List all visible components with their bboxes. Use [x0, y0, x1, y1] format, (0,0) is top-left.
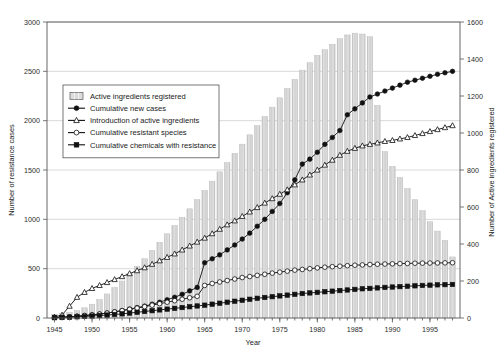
chart-canvas: 0500100015002000250030000200400600800100… — [0, 0, 504, 350]
marker-filled-circle — [74, 106, 79, 111]
marker-open-circle — [360, 263, 365, 268]
y-axis-left-tick-label: 2500 — [24, 67, 40, 76]
marker-filled-square — [368, 286, 372, 290]
bar — [435, 231, 441, 318]
bar — [307, 63, 313, 318]
marker-open-circle — [353, 263, 358, 268]
marker-filled-circle — [187, 289, 192, 294]
bar — [179, 217, 185, 318]
marker-filled-square — [428, 283, 432, 287]
bar — [187, 209, 193, 318]
bar — [442, 240, 448, 318]
marker-filled-square — [165, 307, 169, 311]
marker-filled-circle — [428, 74, 433, 79]
bar — [337, 39, 343, 318]
bar — [315, 55, 321, 318]
y-axis-left-tick-label: 1500 — [24, 166, 40, 175]
legend-item-label: Active ingredients registered — [90, 92, 186, 101]
bar — [405, 189, 411, 319]
marker-filled-square — [353, 287, 357, 291]
marker-filled-circle — [405, 80, 410, 85]
marker-open-circle — [345, 263, 350, 268]
bar — [157, 242, 163, 318]
marker-filled-circle — [360, 101, 365, 106]
marker-filled-square — [255, 296, 259, 300]
y-axis-right-tick-label: 1600 — [467, 18, 483, 27]
x-axis-tick-label: 1970 — [234, 325, 250, 334]
marker-open-circle — [450, 260, 455, 265]
bar — [255, 126, 261, 318]
marker-open-circle — [195, 294, 200, 299]
marker-open-circle — [315, 266, 320, 271]
x-axis-tick-label: 1945 — [47, 325, 63, 334]
marker-filled-circle — [345, 112, 350, 117]
marker-filled-square — [150, 308, 154, 312]
marker-open-circle — [240, 275, 245, 280]
marker-open-circle — [210, 281, 215, 286]
marker-open-circle — [323, 265, 328, 270]
marker-filled-circle — [308, 157, 313, 162]
bar — [427, 222, 433, 318]
marker-open-circle — [217, 280, 222, 285]
legend-item-label: Cumulative chemicals with resistance — [90, 141, 216, 150]
x-axis-tick-label: 1990 — [384, 325, 400, 334]
marker-filled-square — [127, 311, 131, 315]
bar — [292, 79, 298, 318]
marker-open-circle — [180, 297, 185, 302]
marker-open-circle — [262, 272, 267, 277]
marker-filled-square — [443, 282, 447, 286]
marker-open-circle — [142, 304, 147, 309]
marker-filled-square — [218, 301, 222, 305]
marker-filled-circle — [375, 92, 380, 97]
marker-open-circle — [165, 300, 170, 305]
marker-filled-square — [390, 285, 394, 289]
marker-filled-circle — [330, 135, 335, 140]
marker-filled-square — [308, 291, 312, 295]
marker-filled-circle — [232, 243, 237, 248]
legend[interactable]: Active ingredients registeredCumulative … — [63, 85, 219, 158]
bar — [217, 172, 223, 318]
marker-open-circle — [187, 295, 192, 300]
marker-filled-square — [142, 309, 146, 313]
bar — [412, 200, 418, 318]
marker-filled-circle — [413, 78, 418, 83]
y-axis-right-tick-label: 200 — [467, 277, 479, 286]
legend-item-label: Introduction of active ingredients — [90, 116, 200, 125]
marker-filled-circle — [240, 237, 245, 242]
marker-filled-circle — [450, 69, 455, 74]
marker-filled-circle — [420, 76, 425, 81]
marker-open-circle — [308, 266, 313, 271]
marker-filled-square — [74, 142, 79, 147]
marker-open-circle — [135, 306, 140, 311]
legend-item[interactable]: Cumulative chemicals with resistance — [68, 141, 216, 150]
marker-open-circle — [172, 298, 177, 303]
marker-filled-square — [383, 285, 387, 289]
marker-filled-square — [323, 290, 327, 294]
marker-filled-square — [225, 300, 229, 304]
bar — [345, 35, 351, 318]
marker-filled-circle — [323, 142, 328, 147]
marker-filled-square — [375, 286, 379, 290]
marker-filled-square — [263, 295, 267, 299]
y-axis-right-tick-label: 800 — [467, 166, 479, 175]
marker-filled-circle — [180, 292, 185, 297]
marker-filled-circle — [195, 285, 200, 290]
marker-open-circle — [443, 261, 448, 266]
marker-filled-square — [293, 292, 297, 296]
marker-open-circle — [428, 261, 433, 266]
bar — [360, 34, 366, 318]
y-axis-left-tick-label: 2000 — [24, 116, 40, 125]
bar — [247, 135, 253, 318]
x-axis-tick-label: 1985 — [347, 325, 363, 334]
marker-filled-circle — [277, 201, 282, 206]
marker-filled-circle — [262, 217, 267, 222]
bar — [285, 89, 291, 318]
marker-open-circle — [225, 278, 230, 283]
marker-open-circle — [405, 261, 410, 266]
bar — [209, 181, 215, 318]
marker-filled-square — [278, 294, 282, 298]
marker-filled-circle — [247, 231, 252, 236]
marker-filled-square — [210, 302, 214, 306]
x-axis-tick-label: 1965 — [197, 325, 213, 334]
bar — [202, 190, 208, 318]
